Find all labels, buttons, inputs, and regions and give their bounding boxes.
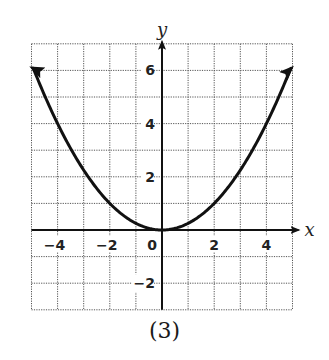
x-tick-label: −4: [44, 237, 66, 253]
x-tick-label: 0: [147, 237, 157, 253]
x-tick-label: −2: [96, 237, 117, 253]
y-tick-label: 2: [145, 169, 155, 185]
x-axis-label: x: [305, 219, 315, 240]
parabola-graph: −4−2024−2246xy: [0, 0, 329, 320]
x-tick-label: 2: [209, 237, 219, 253]
figure-caption: (3): [0, 318, 329, 343]
y-axis-label: y: [156, 19, 168, 40]
x-tick-label: 4: [262, 237, 272, 253]
y-tick-label: 4: [145, 116, 155, 132]
y-tick-label: 6: [145, 62, 155, 78]
y-tick-label: −2: [134, 275, 155, 291]
